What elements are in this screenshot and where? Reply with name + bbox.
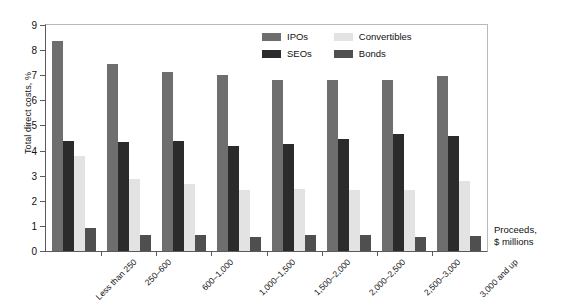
x-axis-category-labels: Less than 250250–600600–1,0001,000–1,500… — [46, 253, 487, 306]
legend-label: SEOs — [287, 48, 312, 59]
x-axis-category-label: 2,000–2,500 — [367, 257, 408, 298]
bar-ipos[interactable] — [162, 72, 173, 251]
bar-ipos[interactable] — [107, 64, 118, 251]
chart-legend: IPOsConvertiblesSEOsBonds — [262, 31, 412, 59]
legend-swatch-icon — [262, 50, 281, 58]
y-axis-tick-label: 7 — [31, 70, 37, 81]
bar-bonds[interactable] — [470, 236, 481, 251]
bar-bonds[interactable] — [305, 235, 316, 251]
bar-group — [52, 25, 96, 251]
bar-convertibles[interactable] — [239, 190, 250, 251]
y-axis-tick-label: 3 — [31, 170, 37, 181]
x-axis-category-label: 1,500–2,000 — [312, 257, 353, 298]
bar-bonds[interactable] — [85, 228, 96, 251]
x-axis-category-label: 3,000 and up — [478, 257, 520, 299]
bar-ipos[interactable] — [327, 80, 338, 251]
bar-ipos[interactable] — [382, 80, 393, 251]
x-axis-title-line1: Proceeds, — [494, 224, 537, 236]
y-axis-tick-label: 1 — [31, 220, 37, 231]
bar-bonds[interactable] — [415, 237, 426, 251]
bar-ipos[interactable] — [437, 76, 448, 251]
x-axis-title-line2: $ millions — [494, 236, 537, 248]
legend-item[interactable]: IPOs — [262, 31, 312, 42]
legend-swatch-icon — [334, 50, 353, 58]
bar-bonds[interactable] — [360, 235, 371, 251]
bar-convertibles[interactable] — [184, 184, 195, 251]
y-axis-tick-label: 6 — [31, 95, 37, 106]
x-axis-title: Proceeds, $ millions — [494, 224, 537, 247]
bar-convertibles[interactable] — [294, 189, 305, 251]
bar-bonds[interactable] — [140, 235, 151, 251]
y-axis-tick-label: 9 — [31, 20, 37, 31]
x-axis-category-label: Less than 250 — [93, 257, 138, 302]
bar-seos[interactable] — [118, 142, 129, 251]
bar-group — [162, 25, 206, 251]
bar-group — [107, 25, 151, 251]
bar-seos[interactable] — [173, 141, 184, 251]
bar-bonds[interactable] — [195, 235, 206, 251]
bar-convertibles[interactable] — [404, 190, 415, 251]
bar-ipos[interactable] — [217, 75, 228, 251]
y-axis-title: Total direct costs, % — [23, 33, 33, 193]
y-axis-tick-label: 8 — [31, 45, 37, 56]
legend-label: Convertibles — [359, 31, 412, 42]
legend-swatch-icon — [334, 33, 353, 41]
y-axis-tick-label: 5 — [31, 120, 37, 131]
y-axis-tick-label: 2 — [31, 195, 37, 206]
bar-convertibles[interactable] — [459, 181, 470, 251]
bar-bonds[interactable] — [250, 237, 261, 251]
bar-convertibles[interactable] — [74, 156, 85, 251]
bar-seos[interactable] — [228, 146, 239, 251]
bar-group — [437, 25, 481, 251]
y-axis-tick-label: 0 — [31, 246, 37, 257]
legend-label: IPOs — [287, 31, 308, 42]
legend-item[interactable]: Convertibles — [334, 31, 412, 42]
legend-label: Bonds — [359, 48, 386, 59]
x-axis-category-label: 1,000–1,500 — [257, 257, 298, 298]
legend-item[interactable]: SEOs — [262, 48, 312, 59]
x-axis-category-label: 2,500–3,000 — [422, 257, 463, 298]
y-axis-tick — [40, 251, 46, 252]
legend-swatch-icon — [262, 33, 281, 41]
bar-seos[interactable] — [448, 136, 459, 251]
bar-group — [217, 25, 261, 251]
x-axis-category-label: 600–1,000 — [200, 257, 235, 292]
bar-seos[interactable] — [63, 141, 74, 251]
bar-convertibles[interactable] — [349, 190, 360, 251]
bar-seos[interactable] — [393, 134, 404, 251]
legend-item[interactable]: Bonds — [334, 48, 412, 59]
bar-convertibles[interactable] — [129, 179, 140, 251]
y-axis-tick-label: 4 — [31, 145, 37, 156]
bar-chart: Total direct costs, % 0123456789 Less th… — [0, 0, 576, 306]
bar-seos[interactable] — [338, 139, 349, 251]
x-axis-category-label: 250–600 — [142, 257, 172, 287]
bar-ipos[interactable] — [52, 41, 63, 251]
bar-seos[interactable] — [283, 144, 294, 251]
bar-ipos[interactable] — [272, 80, 283, 251]
